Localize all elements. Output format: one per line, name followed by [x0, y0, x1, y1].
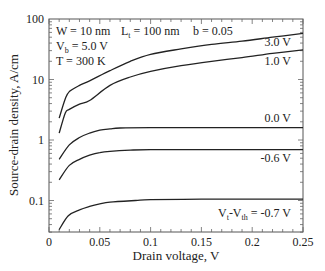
chart: 0.1110100 00.050.10.150.20.25 W = 10 nm …	[0, 0, 325, 271]
series-label-3v: 3.0 V	[265, 35, 292, 49]
annotation-vb: Vb = 5.0 V	[56, 39, 108, 55]
y-tick-labels: 0.1110100	[26, 12, 44, 208]
x-tick-label: 0.1	[143, 235, 158, 249]
series-label-neg06v: -0.6 V	[261, 151, 292, 165]
x-tick-label: 0.2	[245, 235, 260, 249]
y-tick-label: 100	[26, 12, 44, 26]
series-label-0v: 0.0 V	[265, 111, 292, 125]
x-tick-labels: 00.050.10.150.20.25	[46, 235, 314, 249]
annotation-t: T = 300 K	[56, 54, 106, 68]
x-tick-label: 0.25	[293, 235, 314, 249]
x-tick-label: 0.05	[89, 235, 110, 249]
series-label-1v: 1.0 V	[265, 54, 292, 68]
series-label-neg07v: Vt-Vth = -0.7 V	[218, 206, 291, 222]
y-tick-label: 1	[38, 133, 44, 147]
y-tick-label: 0.1	[29, 194, 44, 208]
annotation-w: W = 10 nm	[56, 24, 111, 38]
y-tick-label: 10	[32, 73, 44, 87]
x-axis-label: Drain voltage, V	[133, 248, 220, 263]
annotation-b: b = 0.05	[193, 24, 233, 38]
x-tick-label: 0.15	[191, 235, 212, 249]
annotation-lt: Lt = 100 nm	[121, 24, 180, 40]
x-tick-label: 0	[46, 235, 52, 249]
y-axis-label: Source-drain density, A/cm	[6, 54, 21, 196]
